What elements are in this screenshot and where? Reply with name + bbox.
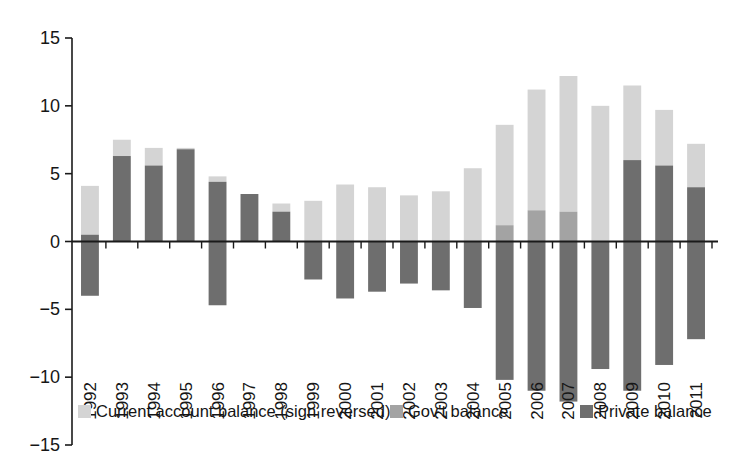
bar-segment-private-negative xyxy=(496,242,514,380)
bar-segment-private-negative xyxy=(528,242,546,391)
y-axis-tick-label: 5 xyxy=(50,164,60,184)
bar-segment-private-positive xyxy=(687,187,705,241)
bar-segment-private-negative xyxy=(209,242,227,306)
chart-container: 151050−5−10−15 1992199319941995199619971… xyxy=(0,0,756,476)
legend-label: Current account balance (sign reversed) xyxy=(96,402,390,420)
y-axis-tick-label: 0 xyxy=(50,232,60,252)
bar-2007 xyxy=(560,76,578,402)
bar-segment-private-negative xyxy=(591,242,609,370)
bar-segment-private-positive xyxy=(241,194,259,241)
bar-segment-current-account xyxy=(560,76,578,212)
y-axis-tick-label: −5 xyxy=(39,299,60,319)
bar-2006 xyxy=(528,90,546,391)
legend-swatch xyxy=(78,405,91,418)
bar-segment-govt-balance xyxy=(560,212,578,242)
y-axis-tick-label: 15 xyxy=(40,28,60,48)
legend-swatch xyxy=(390,405,403,418)
bar-segment-private-negative xyxy=(432,242,450,291)
bar-segment-current-account xyxy=(113,140,131,156)
bar-segment-private-negative xyxy=(687,242,705,340)
bar-segment-current-account xyxy=(209,176,227,181)
bar-2005 xyxy=(496,125,514,380)
y-axis-tick-label: −10 xyxy=(29,367,60,387)
bar-segment-private-negative xyxy=(81,242,99,296)
bar-segment-private-negative xyxy=(368,242,386,292)
bar-segment-private-positive xyxy=(145,166,163,242)
bar-segment-current-account xyxy=(528,90,546,211)
bar-2002 xyxy=(400,195,418,283)
bar-segment-current-account xyxy=(81,186,99,235)
bar-segment-current-account xyxy=(655,110,673,166)
bar-segment-private-negative xyxy=(464,242,482,308)
bar-segment-current-account xyxy=(623,85,641,160)
bar-segment-current-account xyxy=(687,144,705,187)
bar-segment-private-positive xyxy=(655,166,673,242)
legend-label: Gov't balance xyxy=(408,402,508,420)
bar-1999 xyxy=(304,201,322,280)
bar-segment-private-positive xyxy=(209,182,227,242)
bar-1995 xyxy=(177,148,195,242)
bar-segment-govt-balance xyxy=(528,210,546,241)
bar-segment-current-account xyxy=(336,185,354,242)
bar-1993 xyxy=(113,140,131,242)
bar-segment-private-positive xyxy=(177,149,195,241)
bar-segment-private-positive xyxy=(113,156,131,241)
bar-segment-private-negative xyxy=(655,242,673,365)
bar-1998 xyxy=(272,204,290,242)
bar-segment-private-negative xyxy=(560,242,578,402)
legend-label: Private balance xyxy=(598,402,712,420)
bar-segment-current-account xyxy=(272,204,290,212)
bar-segment-current-account xyxy=(145,148,163,166)
bar-segment-current-account xyxy=(368,187,386,241)
bar-segment-private-negative xyxy=(336,242,354,299)
bar-segment-private-positive xyxy=(272,212,290,242)
bar-segment-current-account xyxy=(464,168,482,241)
bar-1994 xyxy=(145,148,163,242)
bar-segment-current-account xyxy=(177,148,195,149)
bar-segment-govt-balance xyxy=(496,225,514,241)
x-axis-year-label: 2007 xyxy=(559,382,578,420)
bar-2001 xyxy=(368,187,386,291)
bar-segment-current-account xyxy=(432,191,450,241)
legend-swatch xyxy=(580,405,593,418)
bar-2004 xyxy=(464,168,482,308)
bar-segment-current-account xyxy=(496,125,514,225)
bar-2009 xyxy=(623,85,641,390)
bar-1997 xyxy=(241,194,259,241)
stacked-bar-chart: 151050−5−10−15 1992199319941995199619971… xyxy=(0,0,756,476)
bar-segment-current-account xyxy=(304,201,322,242)
bar-segment-private-negative xyxy=(400,242,418,284)
bar-segment-private-negative xyxy=(623,242,641,391)
bar-segment-private-negative xyxy=(304,242,322,280)
y-axis-tick-label: −15 xyxy=(29,435,60,455)
bar-segment-current-account xyxy=(400,195,418,241)
bar-segment-private-positive xyxy=(623,160,641,241)
bar-2008 xyxy=(591,106,609,369)
bar-segment-current-account xyxy=(591,106,609,242)
bar-segment-private-positive xyxy=(81,235,99,242)
x-axis-year-label: 2006 xyxy=(528,382,547,420)
y-axis-tick-label: 10 xyxy=(40,96,60,116)
bar-2010 xyxy=(655,110,673,365)
